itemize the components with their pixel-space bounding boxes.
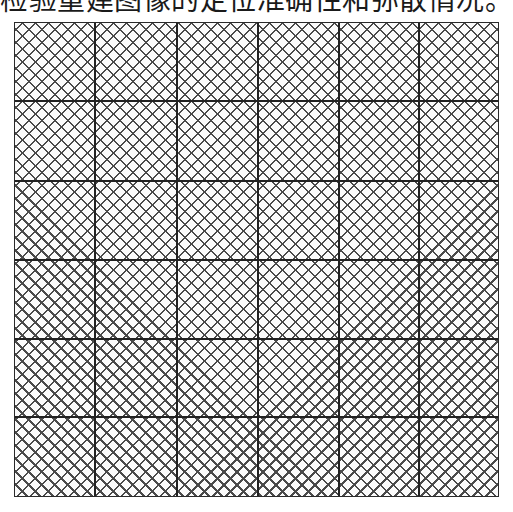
grid-line-horizontal (15, 259, 498, 261)
caption-text: 检验重建图像的定位准确性和弥散情况。 (0, 0, 513, 16)
grid-line-horizontal (15, 100, 498, 102)
grid-line-horizontal (15, 338, 498, 340)
mesh-grid-figure (14, 22, 499, 497)
grid-line-horizontal (15, 416, 498, 418)
grid-line-horizontal (15, 180, 498, 182)
